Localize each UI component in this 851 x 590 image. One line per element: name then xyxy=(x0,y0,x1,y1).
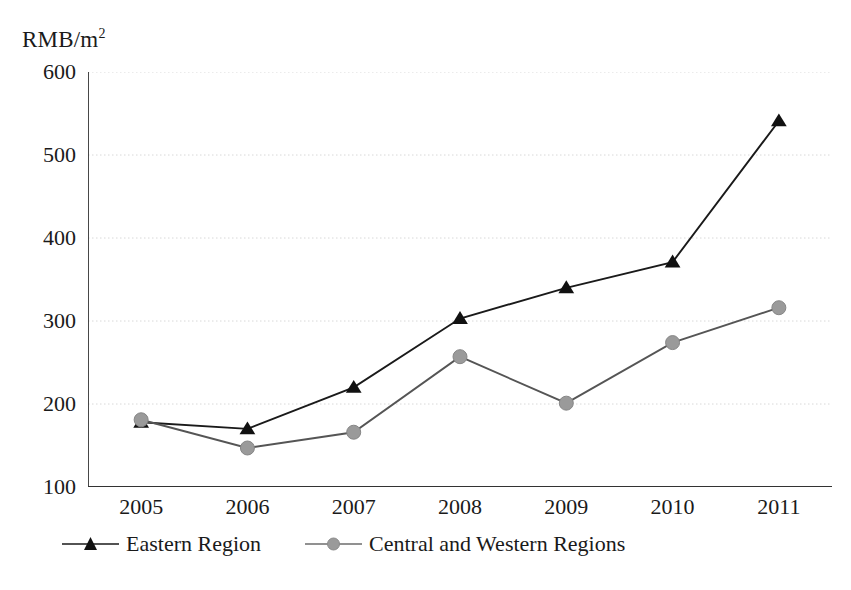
legend-item-central-western-regions[interactable]: Central and Western Regions xyxy=(305,527,625,561)
data-point-marker xyxy=(347,425,361,439)
y-axis-unit-label: RMB/m2 xyxy=(22,26,106,53)
data-point-marker xyxy=(665,255,681,268)
legend-item-eastern-region[interactable]: Eastern Region xyxy=(62,527,261,561)
x-axis-tick-label: 2010 xyxy=(628,496,718,518)
y-axis-tick-label: 500 xyxy=(22,144,76,166)
plot-svg xyxy=(88,72,832,487)
series-line-central-western-regions xyxy=(141,308,779,448)
y-axis-tick-label: 400 xyxy=(22,227,76,249)
data-point-marker xyxy=(772,301,786,315)
legend-marker-circle-icon xyxy=(305,534,362,554)
data-point-marker xyxy=(771,113,787,126)
series-line-eastern-region xyxy=(141,121,779,429)
legend-label-central-western-regions: Central and Western Regions xyxy=(369,533,625,555)
x-axis-tick-label: 2007 xyxy=(309,496,399,518)
data-point-marker xyxy=(453,350,467,364)
legend-label-eastern-region: Eastern Region xyxy=(126,533,261,555)
y-axis-unit-exponent: 2 xyxy=(98,26,105,41)
x-axis-tick-label: 2006 xyxy=(202,496,292,518)
x-axis-tick-label: 2008 xyxy=(415,496,505,518)
data-point-marker xyxy=(134,413,148,427)
data-point-marker xyxy=(666,336,680,350)
data-point-marker xyxy=(346,380,362,393)
y-axis-tick-label: 200 xyxy=(22,393,76,415)
line-chart: RMB/m2 100200300400500600 20052006200720… xyxy=(0,0,851,590)
chart-legend: Eastern Region Central and Western Regio… xyxy=(0,527,851,567)
y-axis-tick-label: 600 xyxy=(22,61,76,83)
legend-marker-triangle-icon xyxy=(62,534,119,554)
y-axis-tick-label: 100 xyxy=(22,476,76,498)
data-point-marker xyxy=(240,441,254,455)
x-axis-tick-label: 2005 xyxy=(96,496,186,518)
data-point-marker xyxy=(559,396,573,410)
y-axis-tick-label: 300 xyxy=(22,310,76,332)
plot-area xyxy=(88,72,832,487)
y-axis-unit-text: RMB/m xyxy=(22,27,98,52)
x-axis-tick-label: 2011 xyxy=(734,496,824,518)
x-axis-tick-label: 2009 xyxy=(521,496,611,518)
